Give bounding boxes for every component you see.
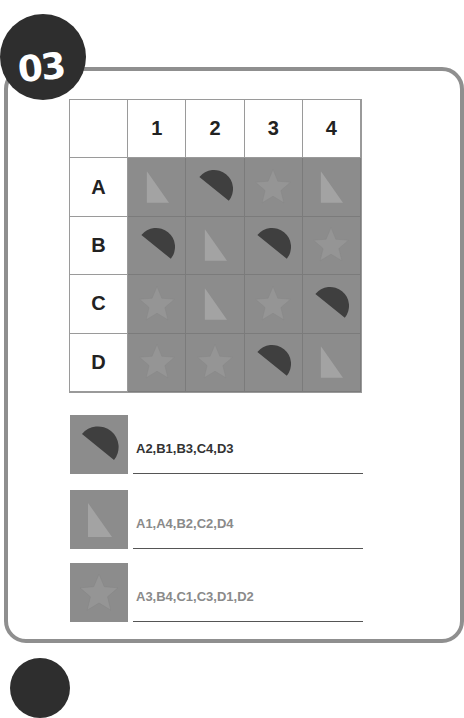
answer-text: A3,B4,C1,C3,D1,D2 <box>136 589 254 604</box>
answer-line <box>133 473 363 474</box>
star-icon <box>308 222 354 268</box>
row-header: A <box>70 158 128 216</box>
grid-cell-d2 <box>186 334 244 392</box>
column-header: 3 <box>245 100 303 158</box>
grid-cell-c1 <box>128 275 186 333</box>
half-circle-icon <box>134 222 180 268</box>
legend-swatch <box>70 563 128 622</box>
grid-cell-d1 <box>128 334 186 392</box>
grid-cell-b1 <box>128 217 186 275</box>
legend-row-half-circle: A2,B1,B3,C4,D3 <box>70 415 370 475</box>
column-header: 1 <box>128 100 186 158</box>
grid-corner-cell <box>70 100 128 158</box>
row-header: D <box>70 334 128 392</box>
grid-cell-a3 <box>245 158 303 216</box>
half-circle-icon <box>250 339 296 385</box>
star-icon <box>250 281 296 327</box>
row-header: B <box>70 217 128 275</box>
answer-line <box>133 621 363 622</box>
star-icon <box>134 339 180 385</box>
triangle-icon <box>74 495 124 545</box>
star-icon <box>192 339 238 385</box>
triangle-icon <box>134 164 180 210</box>
grid-cell-a1 <box>128 158 186 216</box>
grid-cell-c2 <box>186 275 244 333</box>
triangle-icon <box>192 222 238 268</box>
grid-cell-d3 <box>245 334 303 392</box>
half-circle-icon <box>308 281 354 327</box>
legend-row-triangle: A1,A4,B2,C2,D4 <box>70 490 370 550</box>
triangle-icon <box>308 164 354 210</box>
grid-cell-d4 <box>303 334 361 392</box>
grid-cell-c3 <box>245 275 303 333</box>
grid-cell-c4 <box>303 275 361 333</box>
grid-cell-a2 <box>186 158 244 216</box>
star-icon <box>134 281 180 327</box>
answer-text: A1,A4,B2,C2,D4 <box>136 516 234 531</box>
half-circle-icon <box>192 164 238 210</box>
coordinate-grid: 1234ABCD <box>69 99 362 393</box>
grid-cell-b4 <box>303 217 361 275</box>
legend-swatch <box>70 490 128 549</box>
column-header: 2 <box>186 100 244 158</box>
column-header: 4 <box>303 100 361 158</box>
next-exercise-badge <box>10 658 70 718</box>
triangle-icon <box>192 281 238 327</box>
half-circle-icon <box>250 222 296 268</box>
exercise-number: 03 <box>4 46 77 89</box>
half-circle-icon <box>74 420 124 470</box>
legend-swatch <box>70 415 128 474</box>
answer-line <box>133 548 363 549</box>
answer-text: A2,B1,B3,C4,D3 <box>136 441 234 456</box>
star-icon <box>250 164 296 210</box>
grid-cell-b3 <box>245 217 303 275</box>
triangle-icon <box>308 339 354 385</box>
grid-cell-a4 <box>303 158 361 216</box>
star-icon <box>74 568 124 618</box>
grid-cell-b2 <box>186 217 244 275</box>
legend-row-star: A3,B4,C1,C3,D1,D2 <box>70 563 370 623</box>
row-header: C <box>70 275 128 333</box>
